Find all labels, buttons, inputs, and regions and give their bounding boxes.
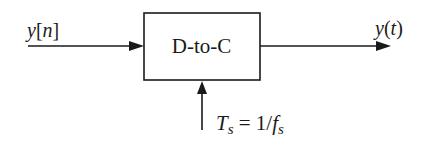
output-signal-close: ) [396, 17, 403, 39]
output-signal-label: y(t) [375, 18, 403, 38]
equals-text: = 1/ [234, 111, 273, 135]
freq-sub: s [278, 121, 284, 137]
input-signal-open: [ [36, 19, 43, 41]
input-signal-arg: n [43, 19, 53, 41]
input-signal-var: y [27, 19, 36, 41]
input-arrow [28, 41, 144, 51]
sampling-period-arrow [197, 81, 207, 130]
block-label: D-to-C [143, 13, 260, 80]
period-var: T [216, 111, 228, 135]
d-to-c-block-diagram: D-to-C y[n] y(t) Ts = 1/fs [0, 0, 421, 147]
input-signal-close: ] [53, 19, 60, 41]
sampling-period-label: Ts = 1/fs [216, 113, 284, 134]
output-signal-open: ( [384, 17, 391, 39]
output-arrow [260, 41, 391, 51]
output-signal-var: y [375, 17, 384, 39]
input-signal-label: y[n] [27, 20, 59, 40]
